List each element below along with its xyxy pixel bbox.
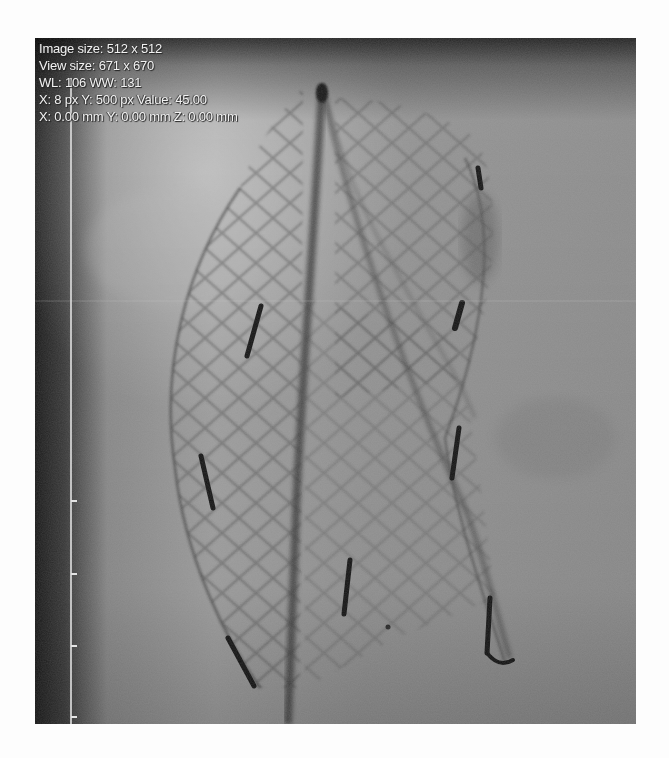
- xray-image[interactable]: [35, 38, 636, 724]
- ruler-tick: [71, 716, 77, 718]
- vertical-ruler: [70, 78, 72, 724]
- ruler-tick: [71, 500, 77, 502]
- image-viewer[interactable]: Image size: 512 x 512 View size: 671 x 6…: [35, 38, 636, 724]
- page: Image size: 512 x 512 View size: 671 x 6…: [0, 0, 669, 758]
- ruler-tick: [71, 573, 77, 575]
- ruler-tick: [71, 645, 77, 647]
